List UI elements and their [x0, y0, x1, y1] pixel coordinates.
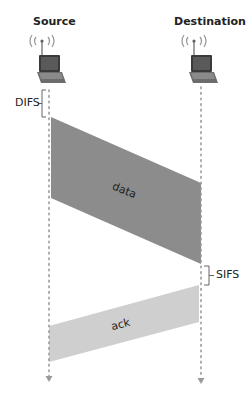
- destination-laptop-icon: [182, 35, 218, 83]
- sifs-label: SIFS: [216, 268, 239, 281]
- source-timeline-arrow-icon: [46, 376, 53, 382]
- source-laptop-icon: [30, 35, 66, 83]
- sifs-bracket: [204, 266, 214, 285]
- diagram-graphics: [0, 0, 252, 402]
- csma-ca-timing-diagram: Source Destination: [0, 0, 252, 402]
- difs-label: DIFS: [15, 96, 40, 109]
- destination-timeline-arrow-icon: [198, 378, 205, 384]
